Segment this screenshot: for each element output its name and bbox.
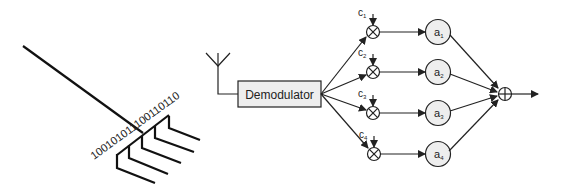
- branch-4: c4 a4: [359, 129, 451, 167]
- multipath-rake-illustration: [23, 46, 200, 183]
- multiplier-icon: [367, 66, 380, 79]
- multiplier-icon: [367, 26, 380, 39]
- diagram-root: 100101011100110110 Demodulator c1 a1 c2: [0, 0, 561, 189]
- rake-prong-5: [169, 116, 200, 140]
- combine-arrows: [449, 35, 498, 151]
- branch-1: c1 a1: [358, 7, 451, 45]
- demodulator-label: Demodulator: [245, 88, 314, 102]
- coef-label-4: c4: [359, 129, 368, 141]
- antenna-icon: [206, 53, 238, 94]
- diagram-canvas: 100101011100110110 Demodulator c1 a1 c2: [0, 0, 561, 189]
- multiplier-icon: [368, 148, 381, 161]
- rake-prong-1: [117, 154, 155, 183]
- demodulator-block: Demodulator: [238, 81, 321, 107]
- coef-label-1: c1: [358, 7, 367, 19]
- branch-2: c2 a2: [358, 47, 451, 85]
- bitstream-label: 100101011100110110: [88, 89, 182, 162]
- coef-label-2: c2: [358, 47, 367, 59]
- multiplier-icon: [367, 107, 380, 120]
- direct-path-line: [23, 46, 143, 133]
- branch-3: c3 a3: [358, 88, 451, 126]
- coef-label-3: c3: [358, 88, 367, 100]
- summer-icon: [499, 88, 512, 101]
